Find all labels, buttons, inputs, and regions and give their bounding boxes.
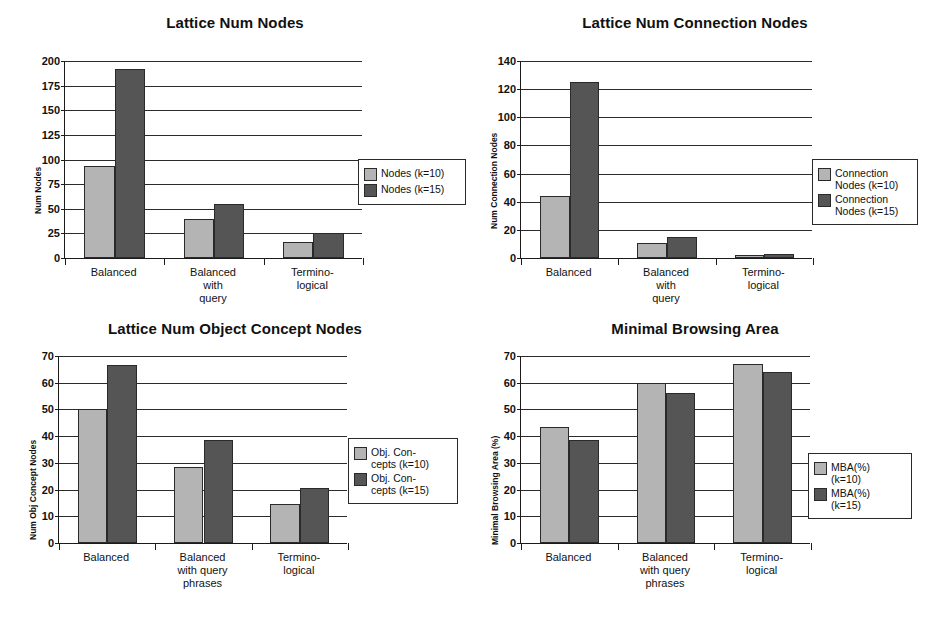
bar-group-container [59, 356, 347, 543]
y-tick-label: 175 [42, 80, 60, 92]
x-tick-label: Balancedwithquery [190, 266, 236, 305]
chart-legend: Connection Nodes (k=10)Connection Nodes … [812, 159, 918, 225]
x-tick-label: Balanced [546, 266, 592, 279]
legend-item: Connection Nodes (k=10) [818, 167, 911, 191]
y-tick-label: 70 [42, 350, 54, 362]
x-tick-mark [264, 258, 265, 265]
y-tick-label: 40 [42, 430, 54, 442]
bar [666, 393, 695, 543]
bar [84, 166, 114, 258]
legend-item: MBA(%) (k=15) [814, 487, 905, 511]
legend-label: Nodes (k=15) [381, 183, 444, 195]
chart-panel-lattice-num-connection-nodes: Lattice Num Connection Nodes Num Connect… [460, 14, 930, 319]
y-tick-label: 25 [48, 227, 60, 239]
bar [570, 82, 600, 258]
chart-panel-lattice-num-object-concept-nodes: Lattice Num Object Concept Nodes Num Obj… [0, 320, 470, 634]
y-tick-label: 100 [42, 154, 60, 166]
y-axis-label: Num Obj Concept Nodes [28, 440, 38, 540]
legend-label: MBA(%) (k=15) [831, 487, 870, 511]
bar [667, 237, 697, 258]
y-tick-label: 0 [510, 537, 516, 549]
bar [540, 196, 570, 258]
bar-group-container [521, 356, 810, 543]
y-tick-label: 150 [42, 104, 60, 116]
x-tick-label: Balancedwith queryphrases [640, 551, 690, 590]
legend-label: Connection Nodes (k=10) [835, 167, 898, 191]
bar [115, 69, 145, 258]
legend-label: Obj. Con- cepts (k=10) [371, 446, 429, 470]
y-tick-label: 100 [498, 111, 516, 123]
legend-swatch-icon [818, 168, 831, 181]
legend-swatch-icon [818, 194, 831, 207]
legend-swatch-icon [354, 473, 367, 486]
bar [313, 233, 343, 258]
x-tick-mark [252, 543, 253, 550]
y-tick-label: 20 [504, 484, 516, 496]
legend-swatch-icon [354, 447, 367, 460]
legend-swatch-icon [364, 184, 377, 197]
legend-item: Connection Nodes (k=15) [818, 193, 911, 217]
legend-swatch-icon [364, 168, 377, 181]
plot-canvas [520, 61, 812, 258]
x-tick-label: Balanced [545, 551, 591, 564]
legend-swatch-icon [814, 462, 827, 475]
x-tick-label: Termino-logical [740, 551, 783, 577]
x-tick-mark [618, 543, 619, 550]
bar [214, 204, 244, 258]
y-tick-label: 20 [42, 484, 54, 496]
legend-label: MBA(%) (k=10) [831, 461, 870, 485]
x-tick-label: Balancedwith queryphrases [177, 551, 227, 590]
x-tick-mark [363, 258, 364, 265]
x-tick-mark [714, 543, 715, 550]
plot-canvas [64, 61, 362, 258]
y-tick-label: 60 [42, 377, 54, 389]
x-tick-mark [164, 258, 165, 265]
y-tick-label: 60 [504, 168, 516, 180]
chart-panel-lattice-num-nodes: Lattice Num Nodes Num Nodes 025507510012… [0, 14, 470, 319]
y-tick-label: 125 [42, 129, 60, 141]
legend-item: Obj. Con- cepts (k=10) [354, 446, 451, 470]
bar [204, 440, 233, 543]
y-tick-label: 0 [48, 537, 54, 549]
bar-group-container [521, 61, 812, 258]
y-tick-label: 70 [504, 350, 516, 362]
bar [283, 242, 313, 258]
legend-label: Obj. Con- cepts (k=15) [371, 472, 429, 496]
bar [735, 255, 765, 258]
bar [637, 383, 666, 543]
x-axis-line [521, 258, 812, 259]
x-tick-mark [348, 543, 349, 550]
y-axis-label: Minimal Browsing Area (%) [490, 436, 500, 545]
legend-swatch-icon [814, 488, 827, 501]
figure-sheet: Lattice Num Nodes Num Nodes 025507510012… [0, 0, 930, 634]
y-tick-label: 140 [498, 55, 516, 67]
bar [78, 409, 107, 543]
x-tick-label: Balanced [91, 266, 137, 279]
bar-group-container [65, 61, 362, 258]
chart-legend: Obj. Con- cepts (k=10)Obj. Con- cepts (k… [348, 438, 458, 504]
y-tick-label: 120 [498, 83, 516, 95]
x-tick-mark [521, 543, 522, 550]
y-axis-label: Num Connection Nodes [489, 133, 499, 229]
y-tick-label: 0 [54, 252, 60, 264]
x-axis-line [521, 543, 810, 544]
y-tick-label: 80 [504, 139, 516, 151]
bar [107, 365, 136, 543]
plot-canvas [58, 356, 347, 543]
y-tick-label: 50 [42, 403, 54, 415]
y-tick-label: 75 [48, 178, 60, 190]
bar [569, 440, 598, 543]
x-tick-label: Termino-logical [277, 551, 320, 577]
x-tick-mark [521, 258, 522, 265]
x-tick-mark [813, 258, 814, 265]
y-tick-label: 200 [42, 55, 60, 67]
y-axis-label: Num Nodes [33, 167, 43, 214]
y-tick-label: 60 [504, 377, 516, 389]
bar [733, 364, 762, 543]
bar [270, 504, 299, 543]
legend-item: Nodes (k=15) [364, 183, 459, 197]
y-tick-label: 30 [504, 457, 516, 469]
y-tick-label: 20 [504, 224, 516, 236]
y-tick-label: 0 [510, 252, 516, 264]
x-tick-mark [65, 258, 66, 265]
